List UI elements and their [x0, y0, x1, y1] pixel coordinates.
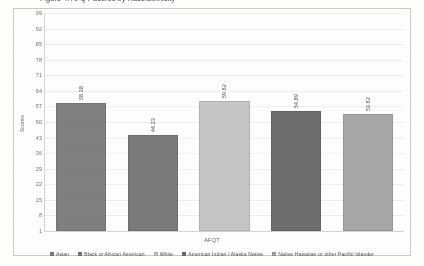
bar[interactable]: [128, 135, 178, 231]
bar-column[interactable]: 44.23: [128, 13, 178, 231]
bar-value-label: 54.89: [293, 94, 299, 108]
legend-item[interactable]: American Indian / Alaska Native: [182, 251, 263, 257]
y-axis-tick-label: 99: [36, 10, 42, 16]
y-axis-tick-label: 43: [36, 135, 42, 141]
bar-column[interactable]: 53.62: [343, 13, 393, 231]
plot-area: 1815222936435057647178859299 58.3844.235…: [44, 13, 404, 232]
bar[interactable]: [271, 111, 321, 231]
bar-value-label: 53.62: [365, 97, 371, 111]
y-axis-tick-label: 1: [39, 228, 42, 234]
legend-item[interactable]: Asian: [50, 251, 69, 257]
legend-item[interactable]: Native Hawaiian or other Pacific Islande…: [272, 251, 374, 257]
legend-swatch-icon: [182, 252, 186, 256]
bar-column[interactable]: 54.89: [271, 13, 321, 231]
x-axis-title: AFQT: [14, 237, 410, 243]
chart-frame: Scores 1815222936435057647178859299 58.3…: [13, 8, 411, 256]
chart-page: Figure 4. AFQT Scores by Race/Ethnicity …: [0, 0, 424, 266]
legend-item[interactable]: White: [154, 251, 174, 257]
bar-series-group: 58.3844.2359.6254.8953.62: [45, 13, 404, 231]
y-axis-tick-label: 78: [36, 57, 42, 63]
plot-canvas: 1815222936435057647178859299 58.3844.235…: [44, 13, 404, 232]
y-axis-tick-label: 22: [36, 181, 42, 187]
y-axis-tick-label: 57: [36, 103, 42, 109]
y-axis-tick-label: 85: [36, 41, 42, 47]
bar[interactable]: [199, 101, 249, 231]
bar-column[interactable]: 58.38: [56, 13, 106, 231]
bar-column[interactable]: 59.62: [199, 13, 249, 231]
y-axis-title: Scores: [19, 115, 25, 132]
legend-swatch-icon: [78, 252, 82, 256]
y-axis-tick-label: 29: [36, 166, 42, 172]
legend-label: White: [160, 251, 174, 257]
legend-label: Asian: [56, 251, 69, 257]
legend-swatch-icon: [272, 252, 276, 256]
legend-label: Black or African American: [84, 251, 145, 257]
bar-value-label: 59.62: [221, 84, 227, 98]
legend-label: Native Hawaiian or other Pacific Islande…: [278, 251, 374, 257]
y-axis-tick-label: 71: [36, 72, 42, 78]
legend-label: American Indian / Alaska Native: [188, 251, 263, 257]
figure-title: Figure 4. AFQT Scores by Race/Ethnicity: [40, 0, 300, 4]
bar[interactable]: [56, 103, 106, 231]
y-axis-tick-label: 15: [36, 197, 42, 203]
y-axis-tick-label: 50: [36, 119, 42, 125]
bar[interactable]: [343, 114, 393, 231]
chart-legend: AsianBlack or African AmericanWhiteAmeri…: [14, 251, 410, 257]
y-axis-tick-label: 64: [36, 88, 42, 94]
legend-swatch-icon: [50, 252, 54, 256]
legend-item[interactable]: Black or African American: [78, 251, 145, 257]
y-axis-tick-label: 92: [36, 26, 42, 32]
y-axis-tick-label: 36: [36, 150, 42, 156]
bar-value-label: 58.38: [78, 86, 84, 100]
bar-value-label: 44.23: [150, 118, 156, 132]
y-axis-tick-label: 8: [39, 212, 42, 218]
legend-swatch-icon: [154, 252, 158, 256]
